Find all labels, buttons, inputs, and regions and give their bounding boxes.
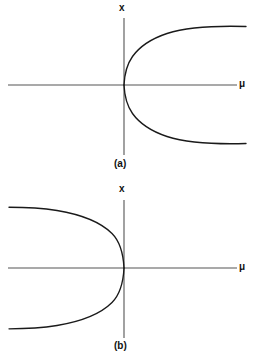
panel-b-lower-branch bbox=[9, 268, 124, 329]
panel-b-caption: (b) bbox=[114, 341, 127, 351]
panel-b: x μ (b) bbox=[0, 180, 263, 361]
panel-b-plot bbox=[0, 180, 263, 361]
panel-a-lower-branch bbox=[124, 85, 246, 144]
panel-b-x-axis-label: x bbox=[119, 184, 125, 194]
panel-a-x-axis-label: x bbox=[119, 3, 125, 13]
panel-a-mu-axis-label: μ bbox=[239, 79, 245, 89]
panel-a: x μ (a) bbox=[0, 0, 263, 180]
bifurcation-figure: x μ (a) x μ (b) bbox=[0, 0, 263, 361]
panel-a-upper-branch bbox=[124, 26, 246, 85]
panel-b-upper-branch bbox=[9, 207, 124, 268]
panel-a-caption: (a) bbox=[114, 159, 126, 169]
panel-a-plot bbox=[0, 0, 263, 180]
panel-b-mu-axis-label: μ bbox=[239, 262, 245, 272]
